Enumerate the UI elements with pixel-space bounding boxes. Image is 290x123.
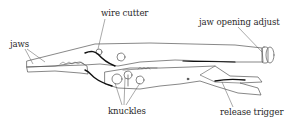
leader-wire-cutter (98, 19, 105, 49)
upper-jaw-outline (27, 43, 263, 67)
label-release-trigger: release trigger (220, 108, 283, 117)
adjust-knob-face (266, 47, 274, 63)
label-knuckles: knuckles (108, 107, 146, 116)
lower-jaw-shadow (85, 70, 112, 86)
label-jaw-opening-adjust: jaw opening adjust (199, 18, 280, 27)
upper-handle-shadow (183, 61, 235, 62)
leader-release-trigger (222, 82, 233, 107)
leader-jaw-adjust (238, 27, 262, 52)
trigger-rivet (187, 78, 189, 80)
leader-knuckles-1 (115, 83, 122, 105)
leader-knuckles-2 (124, 78, 125, 105)
leader-jaws-1 (25, 49, 33, 64)
knuckle-pivot-3 (136, 76, 144, 84)
knuckle-pivot-1 (112, 74, 122, 84)
lower-jaw-outline (27, 62, 88, 74)
lower-handle-outline (105, 66, 262, 95)
lower-handle-shadow (215, 79, 245, 81)
label-wire-cutter: wire cutter (101, 9, 148, 18)
top-pivot (117, 53, 125, 61)
pliers-diagram: wire cutter jaw opening adjust jaws knuc… (0, 0, 290, 123)
label-jaws: jaws (10, 40, 29, 49)
